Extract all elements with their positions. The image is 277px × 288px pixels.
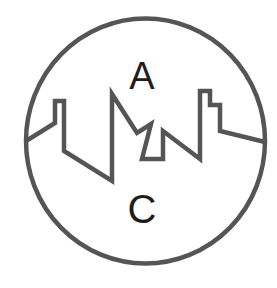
skyline-icon <box>26 91 265 181</box>
top-letter: A <box>129 55 155 97</box>
logo-emblem: A C <box>0 0 277 288</box>
bottom-letter: C <box>128 187 157 231</box>
